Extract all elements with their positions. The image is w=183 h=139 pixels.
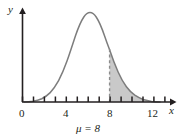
y-axis-arrow-icon: [19, 8, 26, 15]
normal-distribution-figure: y x 0 4 8 12 μ = 8: [0, 0, 183, 139]
mean-annotation-label: μ = 8: [76, 122, 100, 134]
normal-curve: [24, 13, 160, 102]
x-tick-label-8: 8: [107, 107, 113, 119]
shaded-tail-area: [110, 50, 160, 102]
x-tick-label-0: 0: [19, 107, 25, 119]
y-axis-label: y: [8, 3, 13, 15]
x-tick-label-4: 4: [63, 107, 69, 119]
x-axis-ticks: [23, 97, 165, 103]
x-axis-label: x: [169, 104, 174, 116]
x-tick-label-12: 12: [147, 107, 158, 119]
